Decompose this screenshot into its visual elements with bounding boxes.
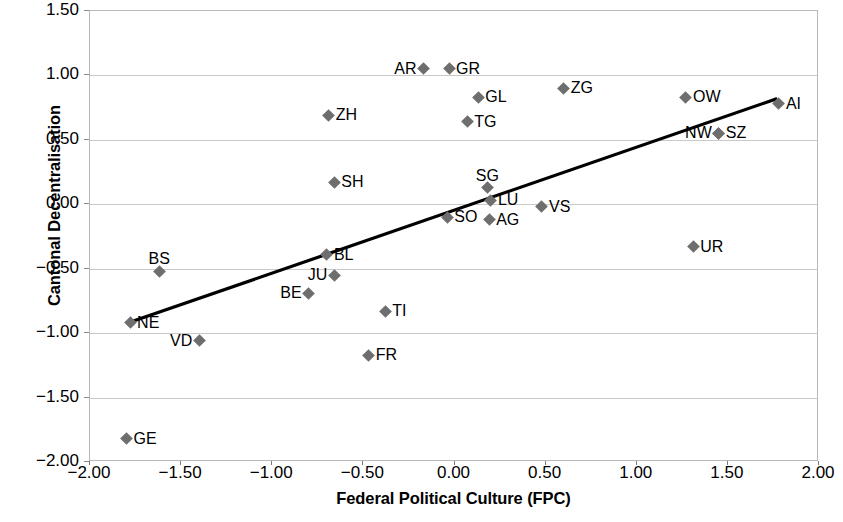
data-point-label: NW [685, 125, 712, 141]
x-tick-label: 0.00 [409, 463, 499, 483]
y-tick-label: −1.50 [1, 387, 79, 407]
x-tick-mark [727, 461, 728, 465]
data-point-label: LU [498, 192, 518, 208]
data-point-label: VS [549, 199, 570, 215]
data-point-label: SH [341, 174, 363, 190]
x-axis-title: Federal Political Culture (FPC) [89, 489, 818, 508]
data-point-label: FR [376, 347, 397, 363]
x-tick-mark [454, 461, 455, 465]
data-point-label: TI [392, 303, 406, 319]
data-point-label: BL [334, 247, 354, 263]
data-point-label: SG [476, 168, 499, 184]
x-tick-label: 2.00 [773, 463, 843, 483]
plot-area: ARGRZGGLOWAIZHTGSZNWSHSGLUVSSOAGURBLBSJU… [89, 10, 818, 461]
x-tick-mark [818, 461, 819, 465]
y-tick-label: 0.00 [1, 193, 79, 213]
x-tick-label: −1.50 [135, 463, 225, 483]
y-tick-label: 1.50 [1, 0, 79, 20]
data-point-label: GL [485, 89, 506, 105]
x-tick-mark [180, 461, 181, 465]
data-point-label: JU [308, 267, 328, 283]
y-tick-label: −1.00 [1, 322, 79, 342]
trendline [90, 11, 819, 462]
data-point-label: AI [786, 96, 801, 112]
y-tick-label: 0.50 [1, 129, 79, 149]
data-point-label: ZH [336, 107, 357, 123]
scatter-chart: Cantonal Decentralisation 1.501.000.500.… [0, 0, 843, 522]
x-tick-label: 1.50 [682, 463, 772, 483]
data-point-label: BS [149, 251, 170, 267]
x-tick-mark [271, 461, 272, 465]
data-point-label: AR [394, 61, 416, 77]
data-point-label: OW [693, 89, 721, 105]
x-tick-mark [545, 461, 546, 465]
y-tick-label: −0.50 [1, 258, 79, 278]
data-point-label: BE [280, 285, 301, 301]
x-tick-label: 1.00 [591, 463, 681, 483]
x-tick-mark [636, 461, 637, 465]
data-point-label: GR [456, 61, 480, 77]
data-point-label: SZ [726, 125, 746, 141]
x-tick-label: 0.50 [500, 463, 590, 483]
data-point-label: ZG [571, 80, 593, 96]
data-point-label: GE [133, 431, 156, 447]
data-point-label: UR [700, 239, 723, 255]
data-point-label: TG [474, 114, 496, 130]
x-tick-label: −1.00 [226, 463, 316, 483]
data-point-label: VD [170, 333, 192, 349]
data-point-label: AG [496, 212, 519, 228]
y-tick-label: 1.00 [1, 64, 79, 84]
x-tick-label: −2.00 [44, 463, 134, 483]
data-point-label: NE [137, 315, 159, 331]
x-tick-mark [89, 461, 90, 465]
x-tick-mark [362, 461, 363, 465]
x-tick-label: −0.50 [317, 463, 407, 483]
data-point-label: SO [454, 209, 477, 225]
